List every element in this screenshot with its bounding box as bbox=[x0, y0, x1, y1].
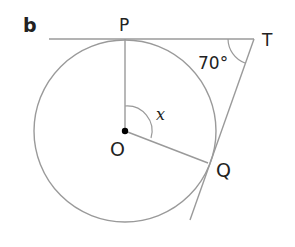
point-label-t: T bbox=[262, 32, 272, 49]
geometry-diagram bbox=[0, 0, 295, 247]
point-label-p: P bbox=[119, 17, 129, 34]
angle-label-t: 70° bbox=[198, 55, 228, 72]
part-label: b bbox=[23, 16, 37, 35]
angle-label-x: x bbox=[156, 107, 165, 123]
point-label-q: Q bbox=[216, 161, 231, 180]
point-label-o: O bbox=[110, 140, 125, 159]
radius-oq bbox=[125, 131, 208, 163]
center-dot bbox=[122, 128, 128, 134]
angle-arc-t bbox=[228, 39, 245, 63]
